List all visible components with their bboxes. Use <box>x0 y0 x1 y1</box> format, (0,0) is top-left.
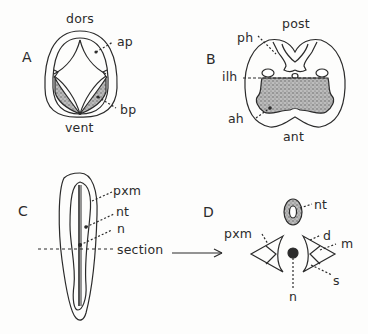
panel-b-letter: B <box>206 52 216 66</box>
label-dors: dors <box>66 13 94 26</box>
label-ah: ah <box>228 113 244 126</box>
label-ph: ph <box>237 32 253 45</box>
diagram-drawing <box>0 0 368 334</box>
panel-d-drawing <box>251 199 336 288</box>
figure-canvas: A B C D dors vent ap bp post ant ph ilh … <box>0 0 368 334</box>
panel-b-drawing <box>243 36 345 127</box>
label-nt-d: nt <box>314 199 327 212</box>
panel-d-letter: D <box>203 205 214 219</box>
label-n-d: n <box>289 291 297 304</box>
label-bp: bp <box>120 104 136 117</box>
label-n-c: n <box>117 223 125 236</box>
label-section: section <box>117 244 163 257</box>
label-ant: ant <box>283 131 304 144</box>
label-vent: vent <box>65 122 94 135</box>
label-ap: ap <box>117 36 133 49</box>
label-pxm-c: pxm <box>113 185 141 198</box>
panel-a-drawing <box>45 31 117 117</box>
label-post: post <box>282 18 310 31</box>
label-d: d <box>323 230 331 243</box>
label-s: s <box>333 275 340 288</box>
label-pxm-d: pxm <box>224 228 252 241</box>
panel-a-letter: A <box>22 50 32 64</box>
label-nt-c: nt <box>116 206 129 219</box>
label-ilh: ilh <box>222 71 237 84</box>
panel-c-letter: C <box>18 204 28 218</box>
label-m: m <box>341 238 353 251</box>
